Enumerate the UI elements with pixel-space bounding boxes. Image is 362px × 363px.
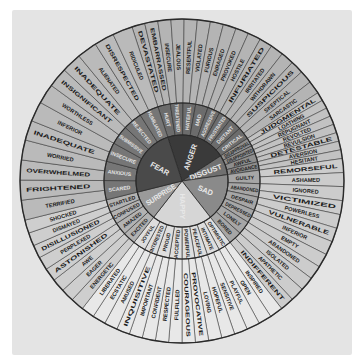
feelings-wheel: DEVASTATEDEMBARRASSEDINSECUREJEALOUSRESE… [0, 0, 362, 363]
outer-label-ashamed: ASHAMED [292, 177, 320, 183]
middle-label-guilty: GUILTY [235, 174, 254, 181]
core-label-happy: HAPPY [178, 193, 187, 219]
outer-label-fulfilled: FULFILLED [173, 290, 180, 321]
outer-label-jealous: JEALOUS [175, 44, 182, 71]
